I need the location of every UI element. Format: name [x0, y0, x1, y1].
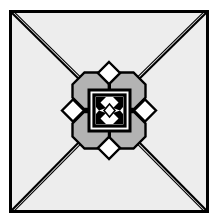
central-rosette-medallion: [84, 84, 135, 137]
artwork-canvas: Ornamental Square Tile Pattern geometric…: [0, 0, 218, 224]
pattern-svg: Ornamental Square Tile Pattern geometric…: [0, 0, 218, 224]
